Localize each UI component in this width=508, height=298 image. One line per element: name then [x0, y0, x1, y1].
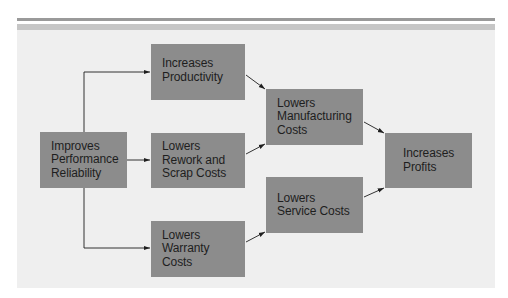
node-increases-productivity: Increases Productivity — [151, 44, 245, 100]
node-label: Lowers Service Costs — [277, 192, 350, 219]
node-lowers-manufacturing-costs: Lowers Manufacturing Costs — [266, 89, 363, 145]
node-label: Lowers Manufacturing Costs — [277, 97, 352, 138]
header-rule-dark — [17, 18, 495, 21]
node-label: Increases Productivity — [162, 57, 223, 84]
node-label: Increases Profits — [403, 147, 454, 174]
node-label: Improves Performance Reliability — [51, 140, 119, 181]
node-label: Lowers Warranty Costs — [162, 229, 209, 270]
node-lowers-warranty-costs: Lowers Warranty Costs — [151, 221, 245, 277]
node-increases-profits: Increases Profits — [385, 133, 472, 188]
node-lowers-rework-scrap-costs: Lowers Rework and Scrap Costs — [151, 133, 245, 188]
node-label: Lowers Rework and Scrap Costs — [162, 140, 226, 181]
node-improves-performance-reliability: Improves Performance Reliability — [40, 132, 127, 188]
node-lowers-service-costs: Lowers Service Costs — [266, 177, 363, 233]
